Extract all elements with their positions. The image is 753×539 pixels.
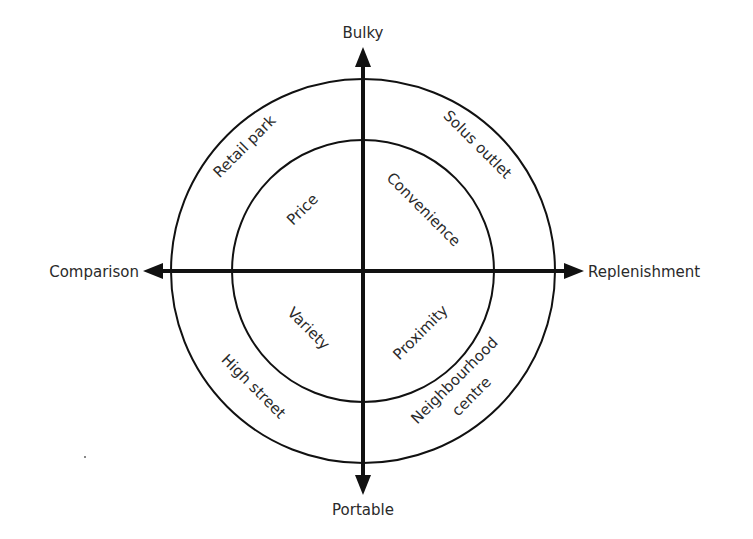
stray-dot	[84, 456, 86, 458]
retail-location-diagram: Bulky Portable Comparison Replenishment …	[0, 0, 753, 539]
outer-label-retail-park: Retail park	[210, 111, 280, 181]
axis-label-top: Bulky	[343, 24, 384, 42]
arrow-right-icon	[564, 263, 584, 279]
arrow-up-icon	[355, 47, 371, 67]
axis-label-bottom: Portable	[332, 501, 394, 519]
inner-label-convenience: Convenience	[383, 169, 464, 250]
arrow-left-icon	[143, 263, 163, 279]
axis-label-right: Replenishment	[588, 263, 700, 281]
inner-label-price: Price	[283, 190, 322, 229]
axis-label-left: Comparison	[49, 263, 139, 281]
inner-label-proximity: Proximity	[389, 301, 451, 363]
outer-label-high-street: High street	[218, 351, 290, 423]
inner-label-variety: Variety	[284, 303, 334, 353]
arrow-down-icon	[355, 475, 371, 495]
